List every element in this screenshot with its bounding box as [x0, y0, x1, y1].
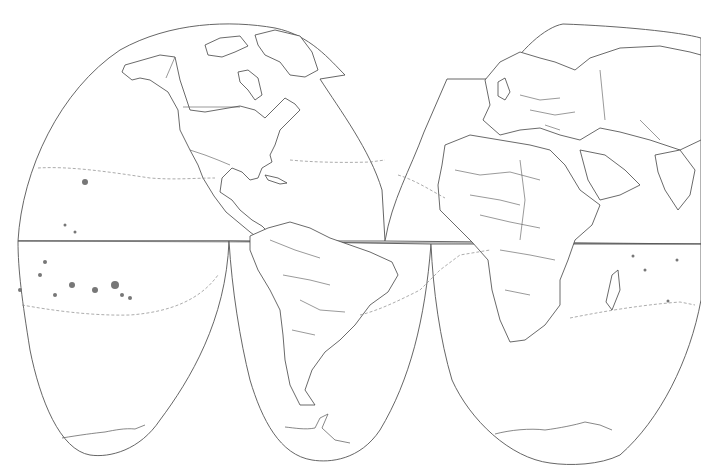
lobe-south-africa — [431, 244, 701, 464]
lobe-south-pacific — [18, 241, 229, 456]
world-outline-map — [0, 0, 701, 471]
